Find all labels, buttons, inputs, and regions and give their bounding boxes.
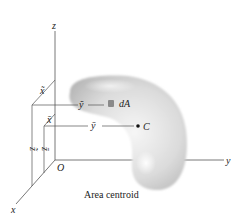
origin-label: O [57, 162, 64, 173]
area-shape [69, 76, 187, 191]
area-centroid-figure: z y x O x̃ ỹ z̃ dA x̄ ȳ z̄ C Area centro… [0, 0, 235, 220]
element-z-label: z̃ [28, 146, 39, 151]
element-y-label: ỹ [78, 99, 84, 110]
element-patch [108, 100, 114, 107]
centroid-x-label: x̄ [46, 114, 52, 125]
x-axis-label: x [10, 204, 16, 215]
centroid-y-label: ȳ [90, 120, 96, 131]
z-axis-label: z [51, 20, 56, 31]
centroid-dot [136, 124, 140, 128]
element-x-label: x̃ [39, 85, 45, 96]
element-label: dA [119, 98, 131, 109]
centroid-z-label: z̄ [40, 146, 51, 151]
y-axis-label: y [225, 155, 231, 166]
centroid-label: C [143, 121, 150, 132]
figure-caption: Area centroid [84, 189, 139, 200]
x-axis [16, 160, 55, 204]
